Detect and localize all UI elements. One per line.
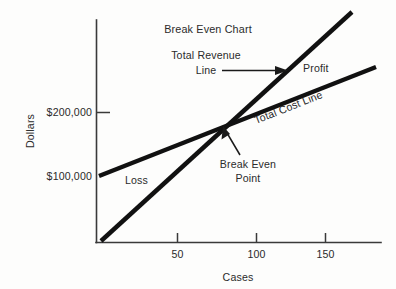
total-revenue-line-label-row1: Total Revenue: [171, 49, 241, 61]
y-tick-label-100000: $100,000: [47, 170, 92, 182]
y-axis-title: Dollars: [24, 114, 36, 148]
x-tick-label-50: 50: [171, 248, 183, 260]
chart-title: Break Even Chart: [164, 23, 252, 35]
break-even-point-label-row2: Point: [236, 172, 261, 184]
break-even-point-annotation: Break Even Point: [220, 126, 276, 184]
data-series-group: [99, 12, 376, 241]
x-axis-title: Cases: [223, 271, 254, 283]
axis-titles: Cases Dollars: [24, 114, 253, 283]
loss-region-label: Loss: [125, 174, 148, 186]
break-even-point-label-row1: Break Even: [220, 158, 276, 170]
y-axis-ticks: $200,000 $100,000: [47, 106, 110, 182]
x-tick-label-150: 150: [316, 248, 334, 260]
break-even-arrow-shaft: [227, 133, 240, 155]
total-revenue-line-annotation: Total Revenue Line: [171, 49, 288, 76]
profit-region-label: Profit: [303, 62, 329, 74]
break-even-chart-figure: 50 100 150 $200,000 $100,000 Cases Dolla…: [0, 0, 396, 289]
x-tick-label-100: 100: [247, 248, 265, 260]
x-axis-ticks: 50 100 150: [171, 233, 334, 260]
chart-canvas: 50 100 150 $200,000 $100,000 Cases Dolla…: [0, 0, 396, 289]
y-tick-label-200000: $200,000: [47, 106, 92, 118]
total-revenue-line-label-row2: Line: [196, 64, 217, 76]
